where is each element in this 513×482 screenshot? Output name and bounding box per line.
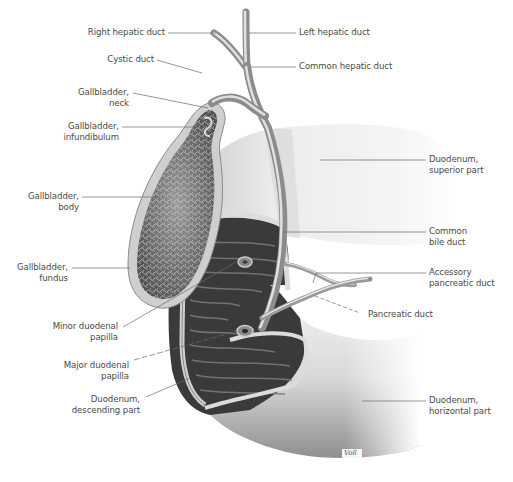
label-pancreatic-duct: Pancreatic duct: [368, 309, 433, 320]
label-gallbladder-fundus: Gallbladder, fundus: [17, 262, 68, 284]
label-common-bile-duct: Common bile duct: [429, 226, 467, 248]
label-duodenum-horizontal-part: Duodenum, horizontal part: [429, 395, 491, 417]
label-left-hepatic-duct: Left hepatic duct: [299, 27, 370, 38]
label-accessory-pancreatic-duct: Accessory pancreatic duct: [429, 267, 495, 289]
signature-text: Voll: [344, 448, 357, 459]
label-duodenum-descending-part: Duodenum, descending part: [72, 394, 140, 416]
label-minor-duodenal-papilla: Minor duodenal papilla: [53, 321, 118, 343]
label-cystic-duct: Cystic duct: [107, 54, 154, 65]
label-major-duodenal-papilla: Major duodenal papilla: [64, 360, 129, 382]
anatomy-figure: Right hepatic duct Left hepatic duct Cys…: [0, 0, 513, 482]
label-common-hepatic-duct: Common hepatic duct: [299, 61, 392, 72]
label-gallbladder-neck: Gallbladder, neck: [78, 87, 129, 109]
label-gallbladder-body: Gallbladder, body: [28, 191, 79, 213]
label-duodenum-superior-part: Duodenum, superior part: [429, 154, 483, 176]
label-gallbladder-infundibulum: Gallbladder, infundibulum: [63, 121, 119, 143]
label-right-hepatic-duct: Right hepatic duct: [88, 27, 165, 38]
